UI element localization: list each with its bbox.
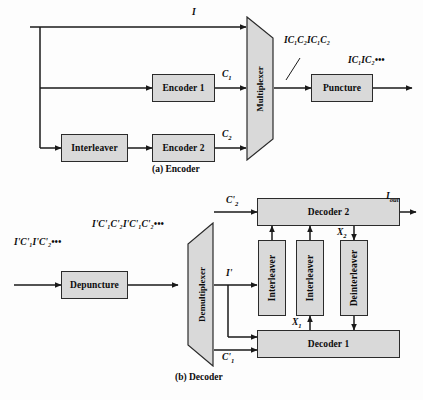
block-puncture[interactable]: Puncture [311, 74, 373, 102]
label-demux-input: I'C'₁C'₂I'C'₁C'₂••• [92, 220, 164, 230]
caption-encoder: (a) Encoder [152, 164, 200, 174]
label-cprime2: C'2 [226, 196, 238, 207]
label-x1: X1 [292, 318, 302, 329]
block-interleaver-left-label: Interleaver [267, 255, 277, 301]
block-interleaver-left[interactable]: Interleaver [258, 240, 286, 316]
block-encoder-2-label: Encoder 2 [162, 143, 204, 153]
figure-turbo-codec: Encoder 1 Encoder 2 Interleaver Multiple… [0, 0, 423, 400]
block-deinterleaver[interactable]: Deinterleaver [340, 240, 368, 316]
block-encoder-1[interactable]: Encoder 1 [152, 74, 215, 102]
block-deinterleaver-label: Deinterleaver [349, 250, 359, 307]
block-puncture-label: Puncture [323, 83, 361, 93]
block-decoder-2-label: Decoder 2 [308, 207, 350, 217]
label-iprime: I' [226, 269, 232, 279]
label-x2: X2 [337, 228, 347, 239]
block-decoder-1-label: Decoder 1 [308, 339, 350, 349]
label-c1: C1 [222, 70, 232, 81]
block-demultiplexer[interactable]: Demultiplexer [178, 222, 214, 367]
label-c2-sub: 2 [228, 134, 231, 141]
block-decoder-1[interactable]: Decoder 1 [257, 330, 400, 358]
block-multiplexer[interactable]: Multiplexer [246, 16, 274, 161]
label-mux-output: IC₁C₂IC₁C₂ [284, 36, 330, 46]
label-encoder-input-text: I [192, 7, 196, 17]
label-cprime1: C'1 [222, 353, 234, 364]
label-x2-sub: 2 [343, 232, 346, 239]
label-cprime2-text: C' [226, 195, 235, 205]
block-multiplexer-label: Multiplexer [255, 66, 265, 112]
label-x1-sub: 1 [298, 322, 301, 329]
label-decoder-output: Iout [386, 192, 399, 203]
label-depuncture-input: I'C'₁I'C'₂••• [14, 238, 61, 248]
label-c1-sub: 1 [228, 74, 231, 81]
label-c2: C2 [222, 130, 232, 141]
label-cprime1-sub: 1 [231, 357, 234, 364]
label-cprime2-sub: 2 [235, 200, 238, 207]
block-interleaver-encoder-label: Interleaver [71, 143, 117, 153]
label-puncture-output: IC₁IC₂••• [348, 56, 385, 66]
block-interleaver-encoder[interactable]: Interleaver [61, 134, 128, 162]
label-decoder-output-sub: out [390, 196, 399, 203]
block-decoder-2[interactable]: Decoder 2 [257, 198, 400, 226]
block-depuncture[interactable]: Depuncture [61, 271, 128, 299]
block-depuncture-label: Depuncture [70, 280, 119, 290]
leader-mux-out-label [286, 58, 300, 80]
label-encoder-input: I [192, 8, 196, 18]
caption-decoder: (b) Decoder [175, 372, 223, 382]
block-interleaver-middle[interactable]: Interleaver [296, 240, 324, 316]
block-interleaver-middle-label: Interleaver [305, 255, 315, 301]
block-encoder-1-label: Encoder 1 [162, 83, 204, 93]
block-demultiplexer-label: Demultiplexer [129, 282, 274, 308]
label-cprime1-text: C' [222, 352, 231, 362]
block-encoder-2[interactable]: Encoder 2 [152, 134, 215, 162]
